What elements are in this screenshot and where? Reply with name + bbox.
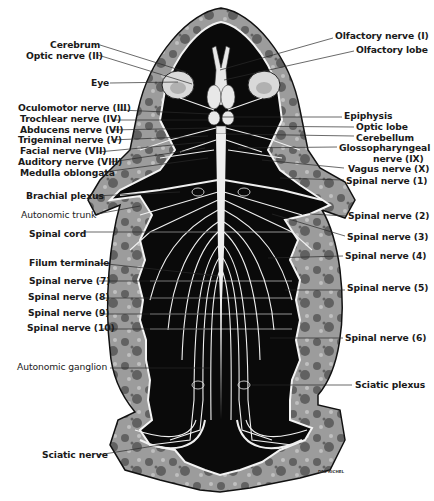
label-spinal-nerve-3: Spinal nerve (3) bbox=[347, 232, 428, 242]
label-sciatic-nerve: Sciatic nerve bbox=[42, 450, 108, 460]
label-oculomotor-nerve-iii: Oculomotor nerve (III) bbox=[18, 103, 131, 113]
anatomical-diagram: CerebrumOptic nerve (II)EyeOculomotor ne… bbox=[0, 0, 434, 501]
label-filum-terminale: Filum terminale bbox=[29, 258, 109, 268]
label-trochlear-nerve-iv: Trochlear nerve (IV) bbox=[20, 114, 121, 124]
label-epiphysis: Epiphysis bbox=[344, 111, 392, 121]
label-spinal-nerve-5: Spinal nerve (5) bbox=[347, 283, 428, 293]
label-optic-nerve-ii: Optic nerve (II) bbox=[26, 51, 103, 61]
label-optic-lobe: Optic lobe bbox=[356, 122, 408, 132]
label-glossopharyngeal: Glossopharyngeal bbox=[339, 143, 430, 153]
label-spinal-nerve-7: Spinal nerve (7) bbox=[29, 276, 110, 286]
label-spinal-nerve-6: Spinal nerve (6) bbox=[345, 333, 426, 343]
artist-signature: DEL RICHEL bbox=[318, 470, 344, 474]
label-medulla-oblongata: Medulla oblongata bbox=[20, 168, 115, 178]
label-spinal-nerve-2: Spinal nerve (2) bbox=[348, 211, 429, 221]
label-spinal-cord: Spinal cord bbox=[29, 229, 86, 239]
label-spinal-nerve-10: Spinal nerve (10) bbox=[27, 323, 115, 333]
label-spinal-nerve-1: Spinal nerve (1) bbox=[346, 176, 427, 186]
label-olfactory-nerve-i: Olfactory nerve (I) bbox=[335, 31, 429, 41]
label-vagus-nerve-x: Vagus nerve (X) bbox=[348, 164, 429, 174]
label-cerebrum: Cerebrum bbox=[50, 40, 100, 50]
label-spinal-nerve-9: Spinal nerve (9) bbox=[28, 308, 109, 318]
label-spinal-nerve-4: Spinal nerve (4) bbox=[345, 251, 426, 261]
label-spinal-nerve-8: Spinal nerve (8) bbox=[28, 292, 109, 302]
label-trigeminal-nerve-v: Trigeminal nerve (V) bbox=[18, 135, 122, 145]
label-brachial-plexus: Brachial plexus bbox=[26, 191, 104, 201]
label-sciatic-plexus: Sciatic plexus bbox=[355, 380, 425, 390]
label-facial-nerve-vii: Facial nerve (VII) bbox=[20, 146, 106, 156]
label-eye: Eye bbox=[91, 78, 109, 88]
label-auditory-nerve-viii: Auditory nerve (VIII) bbox=[18, 157, 122, 167]
label-autonomic-ganglion: Autonomic ganglion bbox=[17, 362, 107, 372]
label-autonomic-trunk: Autonomic trunk bbox=[21, 210, 96, 220]
label-olfactory-lobe: Olfactory lobe bbox=[356, 45, 428, 55]
